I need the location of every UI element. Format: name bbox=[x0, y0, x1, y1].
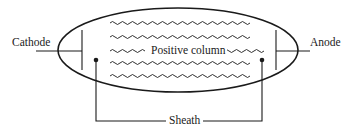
positive-column-label: Positive column bbox=[149, 44, 227, 57]
cathode-label: Cathode bbox=[12, 36, 50, 49]
anode-label: Anode bbox=[310, 36, 341, 49]
wave-row-2 bbox=[110, 36, 250, 39]
wave-row-4 bbox=[110, 62, 250, 65]
wave-row-1 bbox=[110, 22, 250, 25]
wave-row-3-left bbox=[110, 50, 145, 53]
wave-row-5 bbox=[110, 75, 250, 78]
sheath-bracket bbox=[96, 60, 262, 121]
sheath-label: Sheath bbox=[166, 114, 203, 127]
wave-row-3-right bbox=[224, 50, 264, 53]
